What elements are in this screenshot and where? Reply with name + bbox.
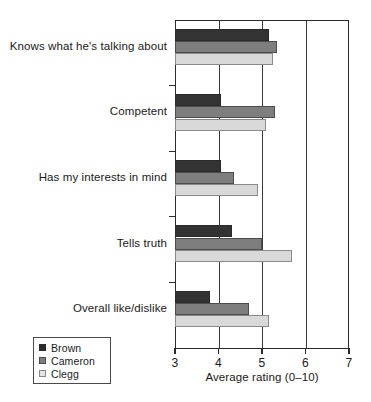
bar-chart: Knows what he's talking aboutCompetentHa… <box>0 0 371 402</box>
bar-brown-4 <box>175 291 210 303</box>
category-label-1: Competent <box>110 105 167 118</box>
bar-clegg-2 <box>175 184 258 196</box>
legend-swatch-cameron <box>39 357 46 364</box>
x-axis-title: Average rating (0–10) <box>175 371 349 383</box>
x-tick-label-4: 4 <box>207 356 231 370</box>
legend-item-clegg[interactable]: Clegg <box>39 367 106 380</box>
bar-clegg-0 <box>175 53 273 65</box>
bar-cameron-4 <box>175 303 249 315</box>
x-tick-label-5: 5 <box>250 356 274 370</box>
legend-swatch-clegg <box>39 370 46 377</box>
x-tick-label-3: 3 <box>163 356 187 370</box>
bar-cameron-3 <box>175 238 262 250</box>
bar-brown-0 <box>175 29 269 41</box>
legend-label-cameron: Cameron <box>51 355 95 367</box>
bar-cameron-2 <box>175 172 234 184</box>
legend-item-cameron[interactable]: Cameron <box>39 354 106 367</box>
legend: Brown Cameron Clegg <box>33 337 111 384</box>
category-label-3: Tells truth <box>117 237 167 250</box>
x-tick-label-7: 7 <box>337 356 361 370</box>
category-label-0: Knows what he's talking about <box>10 40 167 53</box>
x-tick-5 <box>261 348 262 354</box>
gridline-6 <box>306 21 307 348</box>
bar-clegg-1 <box>175 119 266 131</box>
legend-item-brown[interactable]: Brown <box>39 341 106 354</box>
legend-label-brown: Brown <box>51 342 81 354</box>
x-tick-label-6: 6 <box>294 356 318 370</box>
bar-cameron-1 <box>175 106 275 118</box>
legend-swatch-brown <box>39 344 46 351</box>
legend-label-clegg: Clegg <box>51 368 79 380</box>
y-tick-4 <box>169 282 175 283</box>
bar-brown-3 <box>175 225 232 237</box>
bar-clegg-4 <box>175 315 269 327</box>
y-tick-2 <box>169 151 175 152</box>
gridline-5 <box>262 21 263 348</box>
y-tick-3 <box>169 216 175 217</box>
x-tick-4 <box>218 348 219 354</box>
bar-clegg-3 <box>175 250 292 262</box>
bar-brown-2 <box>175 160 221 172</box>
category-label-2: Has my interests in mind <box>39 171 167 184</box>
x-tick-3 <box>174 348 175 354</box>
x-tick-7 <box>348 348 349 354</box>
category-label-4: Overall like/dislike <box>73 302 167 315</box>
bar-cameron-0 <box>175 41 277 53</box>
y-tick-1 <box>169 85 175 86</box>
bar-brown-1 <box>175 94 221 106</box>
x-tick-6 <box>305 348 306 354</box>
